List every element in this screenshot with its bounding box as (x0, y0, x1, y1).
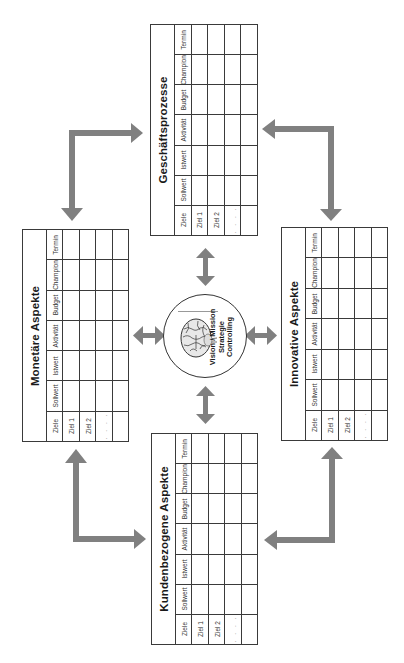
table-header-column: Ziele Sollwert Istwert Aktivität Budget … (176, 434, 192, 644)
scorecard-table: Ziele Sollwert Istwert Aktivität Budget … (47, 230, 128, 441)
header-cell: Istwert (176, 554, 191, 584)
header-cell: Ziele (176, 614, 191, 644)
row-label: . . . . (229, 207, 236, 234)
table-row: Ziel 2 (80, 230, 96, 441)
row-label: Ziel 2 (212, 212, 219, 228)
double-arrow-down-icon (196, 386, 215, 424)
header-cell: Sollwert (306, 379, 321, 409)
header-cell: Budget (176, 493, 191, 523)
header-cell: Champion (47, 259, 62, 289)
row-label: . . . . (229, 616, 236, 643)
l-arrow-top-right-icon (262, 119, 342, 221)
scorecard-table: Ziele Sollwert Istwert Aktivität Budget … (176, 434, 257, 644)
header-cell: Ziele (306, 410, 321, 440)
row-label: Ziel 1 (68, 418, 75, 434)
header-cell: Champion (175, 54, 191, 84)
scorecard-table: Ziele Sollwert Istwert Aktivität Budget … (306, 228, 387, 440)
header-cell: Termin (176, 434, 191, 463)
header-cell: Budget (175, 84, 191, 114)
row-label: Ziel 1 (327, 417, 334, 433)
card-monetaere-aspekte: Monetäre Aspekte Ziele Sollwert Istwert … (22, 229, 129, 442)
header-cell: Sollwert (176, 584, 191, 614)
row-label: Ziel 2 (213, 621, 220, 637)
table-row: Ziel 2 (208, 25, 225, 235)
table-row: Ziel 1 (192, 25, 209, 235)
table-header-column: Ziele Sollwert Istwert Aktivität Budget … (47, 230, 63, 441)
double-arrow-right-icon (245, 326, 277, 345)
card-title: Geschäftsprozesse (157, 76, 169, 183)
header-cell: Termin (47, 230, 62, 259)
table-row (372, 228, 387, 440)
scorecard-table: Ziele Sollwert Istwert Aktivität Budget … (175, 25, 257, 235)
l-arrow-top-left-icon (61, 123, 143, 221)
card-title: Monetäre Aspekte (29, 285, 41, 385)
header-cell: Istwert (306, 349, 321, 379)
card-title-column: Monetäre Aspekte (23, 230, 47, 441)
table-row: . . . . (225, 434, 241, 644)
header-cell: Ziele (175, 205, 191, 235)
table-row (113, 230, 128, 441)
table-row: Ziel 1 (63, 230, 79, 441)
header-cell: Aktivität (175, 114, 191, 144)
double-arrow-left-icon (133, 326, 165, 345)
center-label: Vision / Mission Strategie Controlling (209, 309, 235, 366)
table-row: Ziel 1 (192, 434, 208, 644)
row-label: Ziel 2 (343, 417, 350, 433)
card-title: Kundenbezogene Aspekte (158, 466, 170, 612)
header-cell: Aktivität (176, 523, 191, 553)
row-label: . . . . (100, 413, 107, 440)
header-cell: Termin (175, 25, 191, 54)
table-row (242, 434, 257, 644)
header-cell: Champion (306, 257, 321, 287)
table-row: Ziel 2 (339, 228, 355, 440)
table-row: Ziel 1 (322, 228, 338, 440)
header-cell: Sollwert (175, 175, 191, 205)
table-row: . . . . (355, 228, 371, 440)
table-row (241, 25, 257, 235)
card-title-column: Kundenbezogene Aspekte (152, 434, 176, 644)
row-label: Ziel 1 (197, 621, 204, 637)
table-row: . . . . (225, 25, 242, 235)
header-cell: Termin (306, 228, 321, 257)
table-row: . . . . (96, 230, 112, 441)
vision-center-circle: Vision / Mission Strategie Controlling (163, 294, 247, 378)
header-cell: Sollwert (47, 380, 62, 410)
header-cell: Aktivität (47, 320, 62, 350)
table-header-column: Ziele Sollwert Istwert Aktivität Budget … (175, 25, 192, 235)
table-row: Ziel 2 (209, 434, 225, 644)
header-cell: Ziele (47, 411, 62, 441)
header-cell: Budget (47, 290, 62, 320)
card-innovative-aspekte: Innovative Aspekte Ziele Sollwert Istwer… (281, 227, 388, 441)
double-arrow-up-icon (196, 248, 215, 286)
header-cell: Budget (306, 288, 321, 318)
card-kundenbezogene-aspekte: Kundenbezogene Aspekte Ziele Sollwert Is… (151, 433, 258, 645)
card-geschaeftsprozesse: Geschäftsprozesse Ziele Sollwert Istwert… (150, 24, 258, 236)
card-title-column: Innovative Aspekte (282, 228, 306, 440)
row-label: Ziel 1 (196, 212, 203, 228)
header-cell: Istwert (47, 350, 62, 380)
row-label: . . . . (359, 412, 366, 439)
l-arrow-bottom-left-icon (65, 449, 146, 549)
row-label: Ziel 2 (84, 418, 91, 434)
header-cell: Champion (176, 463, 191, 493)
card-title: Innovative Aspekte (288, 281, 300, 387)
table-header-column: Ziele Sollwert Istwert Aktivität Budget … (306, 228, 322, 440)
l-arrow-bottom-right-icon (264, 447, 343, 550)
header-cell: Istwert (175, 145, 191, 175)
card-title-column: Geschäftsprozesse (151, 25, 175, 235)
header-cell: Aktivität (306, 318, 321, 348)
